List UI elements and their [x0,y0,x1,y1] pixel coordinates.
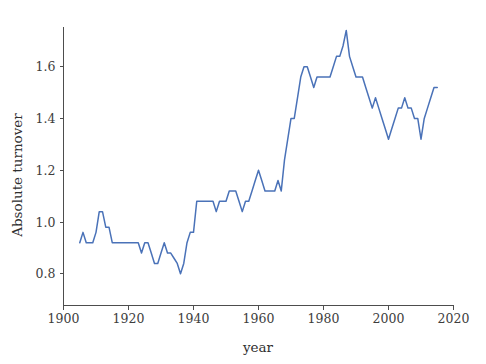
x-axis-title: year [242,339,274,355]
x-tick-label: 1960 [243,311,275,326]
chart-figure: 1900192019401960198020002020 0.81.01.21.… [0,0,486,364]
x-tick-label: 1940 [178,311,210,326]
y-tick-label: 0.8 [36,266,56,281]
x-tick-label: 1900 [48,311,80,326]
plot-background [0,0,486,364]
y-axis-title: Absolute turnover [9,113,25,238]
x-tick-label: 1920 [113,311,145,326]
x-tick-label: 2020 [438,311,470,326]
x-tick-label: 1980 [308,311,340,326]
x-tick-label: 2000 [373,311,405,326]
y-tick-label: 1.0 [36,215,56,230]
y-tick-label: 1.4 [36,111,56,126]
line-chart: 1900192019401960198020002020 0.81.01.21.… [0,0,486,364]
y-tick-label: 1.2 [36,163,56,178]
y-tick-label: 1.6 [36,59,56,74]
